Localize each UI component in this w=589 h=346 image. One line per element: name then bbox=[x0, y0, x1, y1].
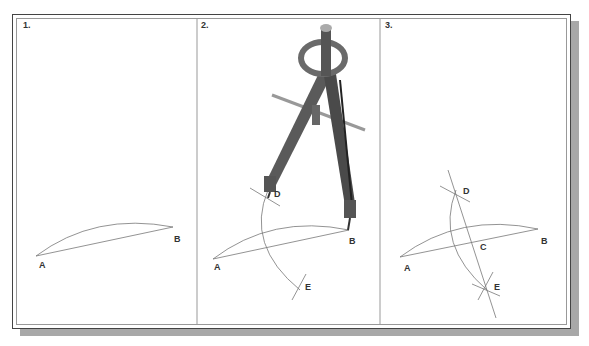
step-number: 2. bbox=[201, 20, 209, 30]
point-label: D bbox=[463, 186, 470, 196]
point-label: A bbox=[39, 260, 46, 270]
point-label: A bbox=[404, 263, 411, 273]
panel-2 bbox=[213, 188, 349, 300]
point-label: B bbox=[541, 236, 548, 246]
step-number: 3. bbox=[385, 20, 393, 30]
construction-diagram bbox=[0, 0, 589, 346]
compass-icon bbox=[264, 24, 365, 230]
point-label: D bbox=[274, 189, 281, 199]
point-label: E bbox=[305, 282, 311, 292]
point-label: A bbox=[214, 262, 221, 272]
point-label: C bbox=[480, 242, 487, 252]
point-label: B bbox=[349, 236, 356, 246]
point-label: E bbox=[494, 282, 500, 292]
step-number: 1. bbox=[23, 20, 31, 30]
panel-1 bbox=[36, 223, 173, 256]
point-label: B bbox=[174, 234, 181, 244]
